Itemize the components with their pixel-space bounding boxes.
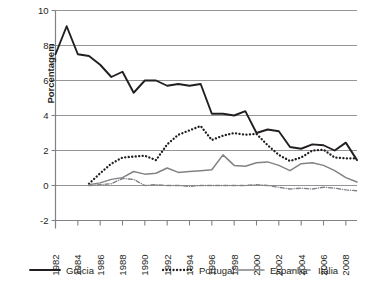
x-tick-label: 1982 xyxy=(50,255,61,276)
x-tick-label: 2008 xyxy=(340,255,351,276)
gridlines xyxy=(56,11,358,229)
data-series-group xyxy=(56,26,358,191)
x-tick-label: 1990 xyxy=(139,255,150,276)
series-line-itlia xyxy=(89,179,357,191)
y-tick-label: 0 xyxy=(43,180,48,191)
y-tick-label: 2 xyxy=(43,145,48,156)
x-tick-label: 1994 xyxy=(184,255,195,276)
series-line-espanha xyxy=(89,155,357,185)
x-tick-label: 1988 xyxy=(117,255,128,276)
y-tick-label: 10 xyxy=(38,5,49,16)
x-tick-label: 1992 xyxy=(162,255,173,276)
legend-label-portugal: Portugal xyxy=(199,265,234,276)
y-tick-label: -2 xyxy=(40,215,48,226)
series-line-grcia xyxy=(56,26,358,160)
x-tick-label: 2000 xyxy=(251,255,262,276)
legend-label-itlia: Itália xyxy=(318,265,339,276)
y-axis-title: Porcentagem xyxy=(45,26,56,122)
legend-label-grcia: Grécia xyxy=(66,265,95,276)
x-tick-label: 1986 xyxy=(95,255,106,276)
line-chart: Porcentagem -20246810 198219841986198819… xyxy=(0,0,369,287)
